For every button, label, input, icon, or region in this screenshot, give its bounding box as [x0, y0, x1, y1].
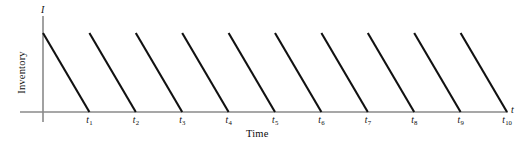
inventory-depletion-segment: [89, 33, 135, 112]
tick-label-subscript: 3: [182, 119, 185, 126]
x-axis-tick-label: t10: [502, 115, 511, 125]
inventory-depletion-segment: [43, 33, 89, 112]
tick-label-subscript: 10: [505, 119, 512, 126]
inventory-depletion-segment: [275, 33, 321, 112]
x-axis-tick-label: t5: [272, 115, 278, 125]
inventory-depletion-segment: [368, 33, 414, 112]
x-axis-tick-label: t7: [365, 115, 371, 125]
x-axis-tick-label: t4: [226, 115, 232, 125]
tick-label-subscript: 8: [414, 119, 417, 126]
y-axis-label-text: Inventory: [16, 51, 27, 94]
tick-label-subscript: 7: [368, 119, 371, 126]
x-axis-label: Time: [246, 128, 269, 139]
tick-label-subscript: 4: [229, 119, 232, 126]
inventory-sawtooth-chart: Inventory Time I t t1t2t3t4t5t6t7t8t9t10: [0, 0, 530, 146]
inventory-level-series: [43, 33, 507, 112]
x-axis-symbol: t: [511, 104, 514, 115]
x-axis-tick-label: t6: [318, 115, 324, 125]
inventory-depletion-segment: [461, 33, 507, 112]
x-axis-tick-label: t3: [179, 115, 185, 125]
x-axis-tick-label: t9: [458, 115, 464, 125]
tick-label-subscript: 2: [136, 119, 139, 126]
inventory-depletion-segment: [136, 33, 182, 112]
y-axis-symbol: I: [41, 4, 44, 15]
inventory-depletion-segment: [414, 33, 460, 112]
tick-label-subscript: 1: [89, 119, 92, 126]
tick-label-subscript: 9: [461, 119, 464, 126]
tick-label-subscript: 6: [321, 119, 324, 126]
x-axis-tick-label: t1: [86, 115, 92, 125]
chart-plot-area: [0, 0, 530, 146]
x-axis-tick-label: t2: [133, 115, 139, 125]
inventory-depletion-segment: [229, 33, 275, 112]
inventory-depletion-segment: [321, 33, 367, 112]
y-axis-label: Inventory: [14, 38, 28, 106]
inventory-depletion-segment: [182, 33, 228, 112]
tick-label-subscript: 5: [275, 119, 278, 126]
x-axis-tick-label: t8: [411, 115, 417, 125]
